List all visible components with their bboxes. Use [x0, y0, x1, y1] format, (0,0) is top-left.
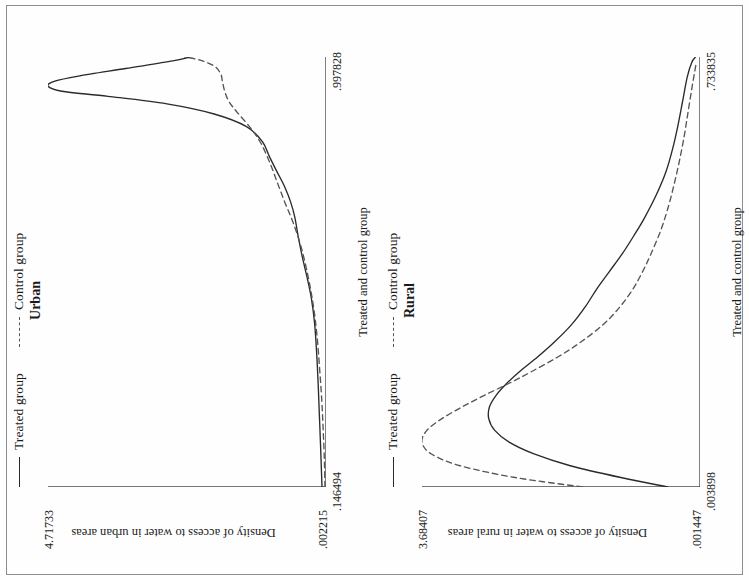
- legend-label-control: Control group: [11, 233, 27, 310]
- panel-title-urban: Urban: [28, 28, 44, 573]
- y-axis-label-wrap-urban: Density of access to water in urban area…: [48, 541, 326, 567]
- x-axis-label-rural: Treated and control group: [730, 57, 745, 487]
- plot-area-urban: [48, 57, 326, 487]
- plot-area-rural: [422, 57, 700, 487]
- panel-title-rural: Rural: [402, 28, 418, 573]
- x-axis-label-urban: Treated and control group: [356, 57, 371, 487]
- x-tick-high-urban: .997828: [330, 52, 345, 91]
- series-line-treated-group: [48, 57, 322, 487]
- legend-key-solid-icon: [393, 457, 394, 487]
- plot-svg-rural: [422, 57, 700, 487]
- legend-label-treated: Treated group: [385, 373, 401, 450]
- y-tick-low-urban: .002215: [316, 510, 331, 549]
- x-tick-low-urban: .146494: [330, 472, 345, 511]
- legend-item-treated: Treated group: [385, 373, 401, 487]
- series-line-control-group: [422, 62, 696, 487]
- panel-urban: Treated group Control group Urban Densit…: [4, 28, 372, 573]
- y-axis-label-urban: Density of access to water in urban area…: [35, 525, 313, 540]
- figure-canvas: Treated group Control group Urban Densit…: [0, 0, 749, 580]
- y-tick-high-urban: 4.71733: [42, 510, 57, 549]
- plot-svg-urban: [48, 57, 326, 487]
- legend-item-control: Control group: [11, 233, 27, 347]
- panel-rural: Treated group Control group Rural Densit…: [378, 28, 746, 573]
- y-tick-high-rural: 3.68407: [416, 510, 431, 549]
- legend-label-control: Control group: [385, 233, 401, 310]
- panel-rural-inner: Treated group Control group Rural Densit…: [378, 28, 746, 573]
- series-line-control-group: [185, 57, 325, 487]
- series-line-treated-group: [488, 57, 695, 487]
- y-tick-low-rural: .001447: [690, 510, 705, 549]
- y-axis-label-rural: Density of access to water in rural area…: [409, 525, 687, 540]
- legend-key-dashed-icon: [393, 317, 394, 347]
- legend-item-control: Control group: [385, 233, 401, 347]
- legend-item-treated: Treated group: [11, 373, 27, 487]
- x-tick-high-rural: .733835: [704, 52, 719, 91]
- panel-urban-inner: Treated group Control group Urban Densit…: [4, 28, 372, 573]
- legend-key-solid-icon: [19, 457, 20, 487]
- legend-key-dashed-icon: [19, 317, 20, 347]
- y-axis-label-wrap-rural: Density of access to water in rural area…: [422, 541, 700, 567]
- legend-label-treated: Treated group: [11, 373, 27, 450]
- x-tick-low-rural: .003898: [704, 472, 719, 511]
